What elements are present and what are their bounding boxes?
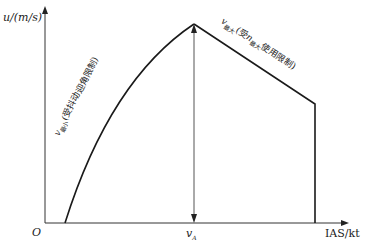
x-axis-label: IAS/kt bbox=[325, 227, 360, 240]
v-min-curve bbox=[65, 24, 194, 223]
v-max-line bbox=[194, 24, 315, 223]
origin-label: O bbox=[32, 226, 41, 239]
va-label: vA bbox=[186, 227, 197, 241]
y-axis-label: u/(m/s) bbox=[3, 11, 42, 24]
